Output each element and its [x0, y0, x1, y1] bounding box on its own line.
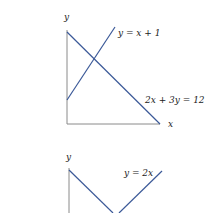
line2-label: 2x + 3y = 12	[144, 95, 205, 105]
x-axis-label: x	[168, 119, 173, 129]
line1-label: y = 2x	[123, 168, 153, 178]
y-axis-label: y	[65, 152, 72, 162]
line-y-equals-x-plus-1	[67, 27, 115, 100]
line-decreasing	[69, 170, 113, 213]
line1-label: y = x + 1	[117, 28, 160, 38]
y-axis-label: y	[63, 12, 70, 22]
diagram-2: y y = 2x	[65, 152, 162, 213]
diagram-canvas: y x y = x + 1 2x + 3y = 12 y y = 2x	[0, 0, 219, 213]
diagram-1: y x y = x + 1 2x + 3y = 12	[63, 12, 205, 129]
